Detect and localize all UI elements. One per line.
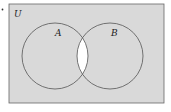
universe-label: U [14,9,22,19]
set-a-label: A [54,28,62,38]
venn-diagram: U A B [0,0,171,112]
set-b-label: B [110,28,118,38]
bullet-dot [2,9,4,11]
